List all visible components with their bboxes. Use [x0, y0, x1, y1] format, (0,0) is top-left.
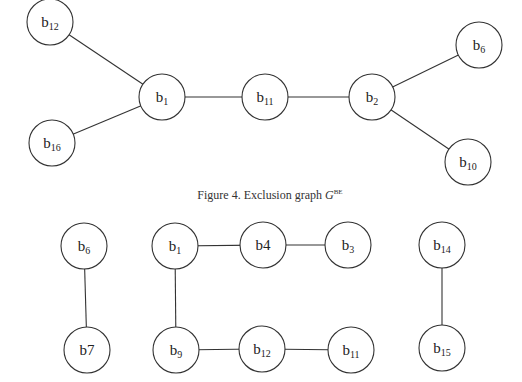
- node-b11: b11: [242, 74, 288, 120]
- figure-caption: Figure 4. Exclusion graph GBE: [0, 188, 522, 203]
- node-b12: b12: [27, 0, 73, 45]
- node-b1: b1: [139, 74, 185, 120]
- node-b9: b9: [153, 327, 199, 373]
- node-b7: b7: [64, 327, 110, 373]
- node-b4: b4: [240, 222, 286, 268]
- caption-prefix: Figure 4. Exclusion graph: [197, 188, 325, 202]
- node-b16: b16: [29, 120, 75, 166]
- node-b6: b6: [61, 223, 107, 269]
- caption-superscript: BE: [334, 188, 343, 196]
- node-b15: b15: [419, 325, 465, 371]
- node-b6: b6: [456, 22, 502, 68]
- edges-layer: [50, 22, 479, 350]
- node-b12: b12: [239, 326, 285, 372]
- node-b2: b2: [349, 74, 395, 120]
- node-b14: b14: [419, 222, 465, 268]
- caption-symbol: G: [325, 188, 334, 202]
- node-label: b7: [80, 342, 96, 358]
- node-b10: b10: [445, 139, 491, 185]
- node-b1: b1: [152, 223, 198, 269]
- node-b11: b11: [328, 327, 374, 373]
- node-label: b4: [256, 237, 272, 253]
- node-b3: b3: [325, 222, 371, 268]
- nodes-layer: b12b16b1b11b2b6b10b6b7b1b4b3b9b12b11b14b…: [27, 0, 502, 373]
